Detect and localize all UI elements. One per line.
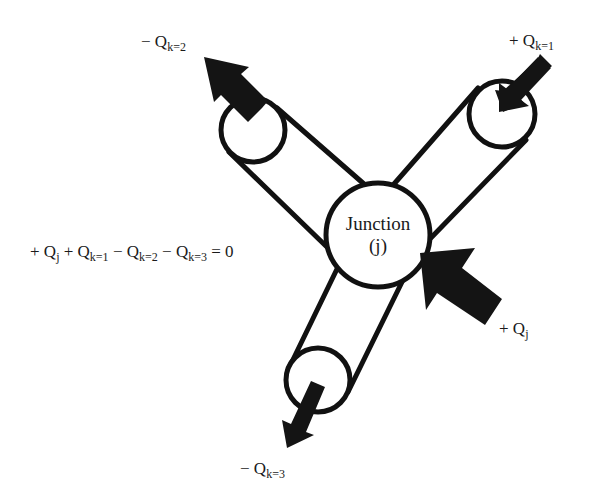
flow-j-sign: + xyxy=(499,319,509,338)
label-flow-k2: − Qk=2 xyxy=(141,33,186,53)
label-flow-k1: + Qk=1 xyxy=(509,32,554,52)
eq-term-1-subscript: j xyxy=(56,250,59,264)
pipe-k1-edge-lower xyxy=(425,140,526,244)
flow-k2-subscript: k=2 xyxy=(167,40,186,54)
eq-term-4-subscript: k=3 xyxy=(188,250,207,264)
pipe-k2-edge-lower xyxy=(229,152,328,248)
eq-term-2-sign: + xyxy=(64,242,74,261)
eq-term-4-symbol: Q xyxy=(176,242,188,261)
flow-k2-sign: − xyxy=(141,32,151,51)
flow-j-subscript: j xyxy=(525,327,528,341)
pipe-k3-edge-right xyxy=(348,282,402,392)
flow-k1-subscript: k=1 xyxy=(535,39,554,53)
eq-term-3-subscript: k=2 xyxy=(139,250,158,264)
pipe-k2-edge-upper xyxy=(277,108,364,184)
eq-term-1-symbol: Q xyxy=(44,242,56,261)
junction-label-line2: (j) xyxy=(326,235,430,257)
flow-k2-symbol: Q xyxy=(155,32,167,51)
junction-label: Junction (j) xyxy=(326,213,430,257)
eq-term-4-sign: − xyxy=(162,242,172,261)
eq-term-1-sign: + xyxy=(30,242,40,261)
flow-j-symbol: Q xyxy=(513,319,525,338)
pipe-k1-edge-upper xyxy=(394,88,478,184)
flow-k3-subscript: k=3 xyxy=(266,467,285,481)
balance-equation: + Qj + Qk=1 − Qk=2 − Qk=3 = 0 xyxy=(30,243,234,263)
junction-label-line1: Junction xyxy=(326,213,430,235)
flow-k1-symbol: Q xyxy=(523,31,535,50)
label-flow-k3: − Qk=3 xyxy=(240,460,285,480)
eq-term-3-symbol: Q xyxy=(127,242,139,261)
eq-term-2-symbol: Q xyxy=(78,242,90,261)
eq-term-2-subscript: k=1 xyxy=(90,250,109,264)
flow-k3-sign: − xyxy=(240,459,250,478)
flow-k1-sign: + xyxy=(509,31,519,50)
eq-term-3-sign: − xyxy=(113,242,123,261)
flow-k3-symbol: Q xyxy=(254,459,266,478)
arrow-qj-icon xyxy=(420,248,502,325)
label-flow-j: + Qj xyxy=(499,320,528,340)
eq-equals: = 0 xyxy=(211,242,233,261)
